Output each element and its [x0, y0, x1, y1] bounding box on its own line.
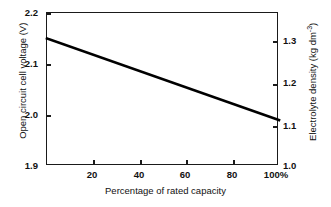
y-axis-tick-label-1-9: 1.9	[12, 161, 38, 171]
chart-figure: 2.2 2.1 2.0 1.9 1.3 1.2 1.1 1.0 20 40 60…	[0, 0, 331, 207]
x-axis-tick-label-40: 40	[119, 170, 159, 180]
series-line-open-circuit-voltage	[47, 39, 279, 121]
y2-axis-title: Electrolyte density (kg dm-3)	[306, 2, 318, 162]
x-axis-tick-label-60: 60	[165, 170, 205, 180]
y2-axis-title-main: Electrolyte density (kg dm	[307, 32, 318, 141]
x-axis-tick-label-20: 20	[72, 170, 112, 180]
plot-area	[46, 12, 278, 165]
y-axis-title: Open circuit cell voltage (V)	[18, 6, 28, 156]
y2-axis-title-exponent: -3	[306, 26, 313, 32]
x-axis-tick-label-100: 100%	[256, 170, 296, 180]
x-axis-title: Percentage of rated capacity	[0, 186, 331, 196]
y2-axis-title-tail: )	[307, 23, 318, 26]
x-axis-tick-label-80: 80	[212, 170, 252, 180]
data-line-svg	[47, 13, 279, 166]
